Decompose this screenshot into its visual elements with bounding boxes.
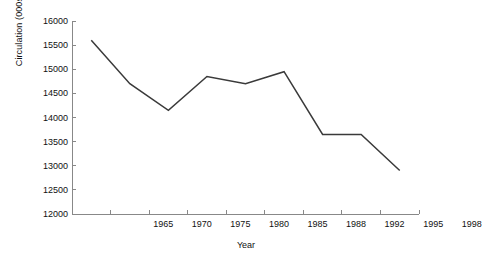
tick-marks xyxy=(72,21,419,214)
axes xyxy=(72,21,419,214)
data-series xyxy=(91,40,399,170)
x-tick-label: 1998 xyxy=(462,219,482,230)
series-line xyxy=(91,40,399,170)
